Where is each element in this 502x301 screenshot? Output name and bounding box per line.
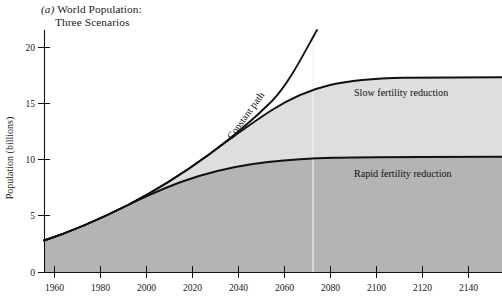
- plot-bands: [44, 30, 502, 272]
- ytick-label-5: 5: [30, 210, 35, 221]
- ytick-label-20: 20: [25, 42, 35, 53]
- xtick-label-2060: 2060: [275, 282, 294, 293]
- xtick-label-2040: 2040: [229, 282, 248, 293]
- ytick-label-10: 10: [25, 154, 35, 165]
- xtick-label-2000: 2000: [137, 282, 156, 293]
- xtick-label-2140: 2140: [459, 282, 478, 293]
- figure-world-population: (a) World Population: Three Scenarios: [0, 0, 502, 301]
- xtick-label-1980: 1980: [91, 282, 110, 293]
- xtick-label-2100: 2100: [367, 282, 386, 293]
- xtick-label-2120: 2120: [413, 282, 432, 293]
- annotation-rapid-fertility: Rapid fertility reduction: [354, 168, 452, 179]
- ytick-label-15: 15: [25, 98, 35, 109]
- xtick-label-2080: 2080: [321, 282, 340, 293]
- xtick-label-1960: 1960: [45, 282, 64, 293]
- xtick-label-2020: 2020: [183, 282, 202, 293]
- annotation-slow-fertility: Slow fertility reduction: [354, 87, 448, 98]
- ytick-label-0: 0: [30, 267, 35, 278]
- y-axis-title: Population (billions): [4, 117, 16, 200]
- population-chart: 20 15 10 5 0 1960 1980 2000 2020 2: [0, 0, 502, 301]
